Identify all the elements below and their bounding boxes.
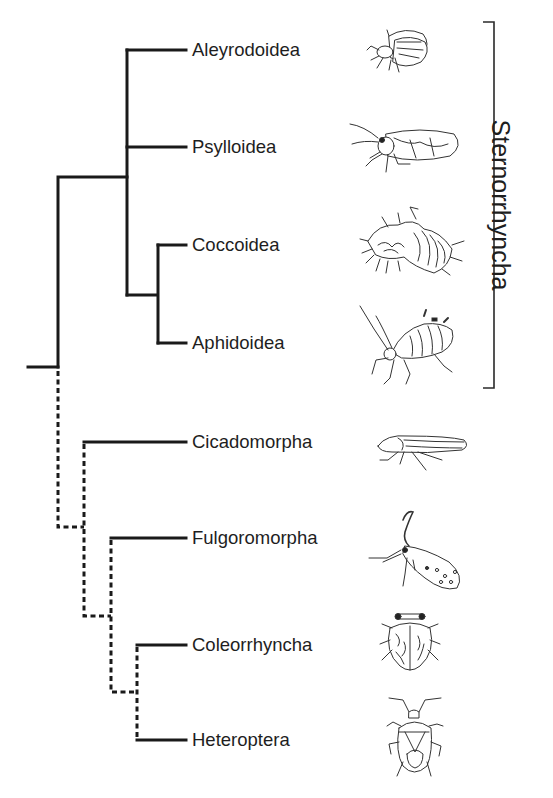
taxon-label-cicadomorpha: Cicadomorpha xyxy=(192,431,312,453)
dashed-node-cicado xyxy=(84,444,111,616)
node-cocco-aphido xyxy=(127,245,158,343)
aphid-icon xyxy=(360,306,453,384)
taxon-label-aphidoidea: Aphidoidea xyxy=(192,332,285,354)
taxon-label-coleorrhyncha: Coleorrhyncha xyxy=(192,634,312,656)
phylogenetic-tree xyxy=(0,0,553,798)
true-bug-icon xyxy=(387,698,443,776)
dashed-node-fulgoro xyxy=(111,540,137,692)
sternorrhyncha-stem xyxy=(58,177,127,367)
taxon-label-aleyrodoidea: Aleyrodoidea xyxy=(192,39,300,61)
taxon-label-psylloidea: Psylloidea xyxy=(192,136,276,158)
whitefly-icon xyxy=(367,30,427,72)
planthopper-icon xyxy=(369,512,460,589)
taxon-label-coccoidea: Coccoidea xyxy=(192,234,279,256)
clade-label-text: Sternorrhyncha xyxy=(486,120,515,291)
dashed-stem-1 xyxy=(58,371,84,527)
taxon-label-fulgoromorpha: Fulgoromorpha xyxy=(192,527,317,549)
scale-insect-icon xyxy=(360,207,464,275)
leafhopper-icon xyxy=(378,436,467,470)
taxon-label-heteroptera: Heteroptera xyxy=(192,729,290,751)
psyllid-icon xyxy=(350,124,458,172)
moss-bug-icon xyxy=(380,614,440,671)
